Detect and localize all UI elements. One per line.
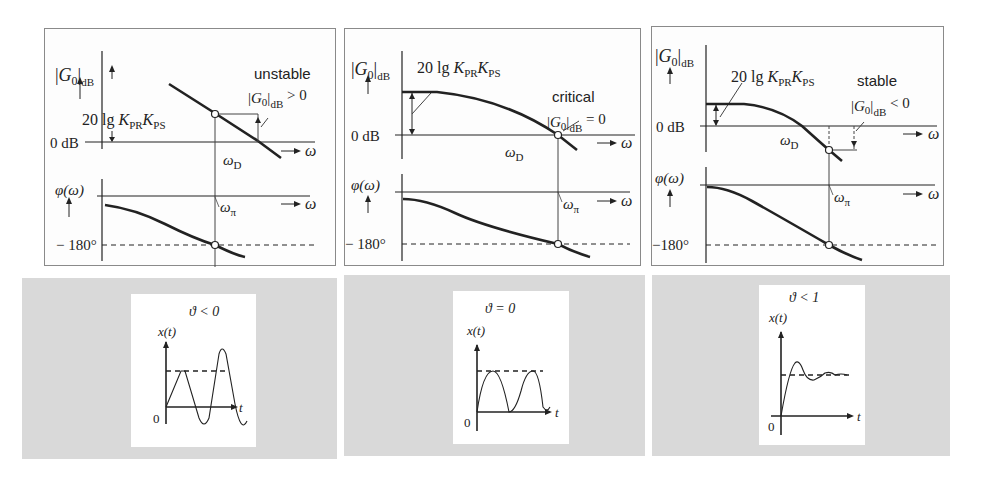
omega-d-label: ωD (223, 152, 242, 171)
y-axis-label: x(t) (466, 323, 485, 338)
condition-label: ϑ < 0 (189, 304, 219, 319)
case-title-critical: critical (552, 88, 595, 105)
step-response-panel-sustained: ϑ = 0 x(t) t 0 (344, 275, 645, 456)
bode-panel-unstable: |G0|dB 20 lg KPRKPS 0 dB unstable |G0|dB… (44, 28, 336, 266)
omega-d-label: ωD (780, 132, 799, 151)
omega-axis-label: ω (305, 142, 316, 159)
gain-label: 20 lg KPRKPS (82, 111, 166, 131)
step-response-card: ϑ < 0 x(t) t 0 (131, 294, 256, 447)
omega-pi-label: ωπ (563, 196, 580, 215)
bode-plot-critical: |G0|dB 20 lg KPRKPS 0 dB critical |G0|dB… (345, 29, 642, 267)
phase-axis-label: φ(ω) (351, 177, 380, 194)
zero-db-label: 0 dB (50, 135, 79, 151)
omega-d-label: ωD (505, 144, 524, 163)
minus-180-label: − 180° (345, 236, 386, 252)
step-response-card: ϑ = 0 x(t) t 0 (453, 291, 569, 444)
step-response-plot-growing: ϑ < 0 x(t) t 0 (131, 294, 256, 447)
case-condition-critical: |G0|dB = 0 (547, 111, 606, 134)
y-axis-label: x(t) (157, 324, 176, 339)
x-axis-label: t (857, 409, 861, 424)
origin-label: 0 (768, 419, 775, 434)
omega-axis-label-phase: ω (305, 195, 316, 212)
step-response-panel-damped: ϑ < 1 x(t) t 0 (652, 275, 950, 456)
zero-db-label: 0 dB (351, 128, 380, 144)
omega-axis-label: ω (621, 134, 632, 151)
omega-axis-label-phase: ω (928, 185, 939, 202)
step-response-plot-damped: ϑ < 1 x(t) t 0 (759, 285, 865, 445)
omega-axis-label-phase: ω (621, 192, 632, 209)
omega-pi-label: ωπ (220, 199, 237, 218)
minus-180-label: − 180° (56, 237, 97, 253)
gain-label: 20 lg KPRKPS (417, 59, 501, 79)
bode-plot-unstable: |G0|dB 20 lg KPRKPS 0 dB unstable |G0|dB… (45, 29, 337, 267)
step-response-plot-sustained: ϑ = 0 x(t) t 0 (453, 291, 569, 444)
omega-axis-label: ω (928, 125, 939, 142)
y-axis-label: x(t) (768, 310, 787, 325)
condition-label: ϑ = 0 (485, 301, 515, 316)
case-condition-stable: |G0|dB < 0 (851, 95, 910, 118)
minus-180-label: −180° (652, 237, 689, 253)
origin-label: 0 (464, 415, 471, 430)
case-title-stable: stable (857, 72, 897, 89)
bode-plot-stable: |G0|dB 20 lg KPRKPS 0 dB stable |G0|dB <… (652, 27, 945, 267)
magnitude-axis-label: |G0|dB (351, 59, 390, 82)
bode-panel-stable: |G0|dB 20 lg KPRKPS 0 dB stable |G0|dB <… (651, 26, 944, 266)
case-title-unstable: unstable (254, 65, 311, 82)
magnitude-axis-label: |G0|dB (55, 65, 94, 88)
origin-label: 0 (153, 411, 160, 426)
condition-label: ϑ < 1 (789, 290, 819, 305)
zero-db-label: 0 dB (656, 119, 685, 135)
step-response-card: ϑ < 1 x(t) t 0 (759, 285, 865, 445)
magnitude-axis-label: |G0|dB (655, 46, 694, 69)
step-response-panel-growing: ϑ < 0 x(t) t 0 (22, 278, 337, 459)
x-axis-label: t (239, 400, 243, 415)
bode-panel-critical: |G0|dB 20 lg KPRKPS 0 dB critical |G0|dB… (344, 28, 641, 266)
case-condition-unstable: |G0|dB > 0 (248, 87, 307, 110)
x-axis-label: t (555, 405, 559, 420)
omega-pi-label: ωπ (834, 189, 851, 208)
gain-label: 20 lg KPRKPS (731, 68, 815, 88)
phase-axis-label: φ(ω) (55, 182, 84, 199)
phase-axis-label: φ(ω) (655, 170, 684, 187)
